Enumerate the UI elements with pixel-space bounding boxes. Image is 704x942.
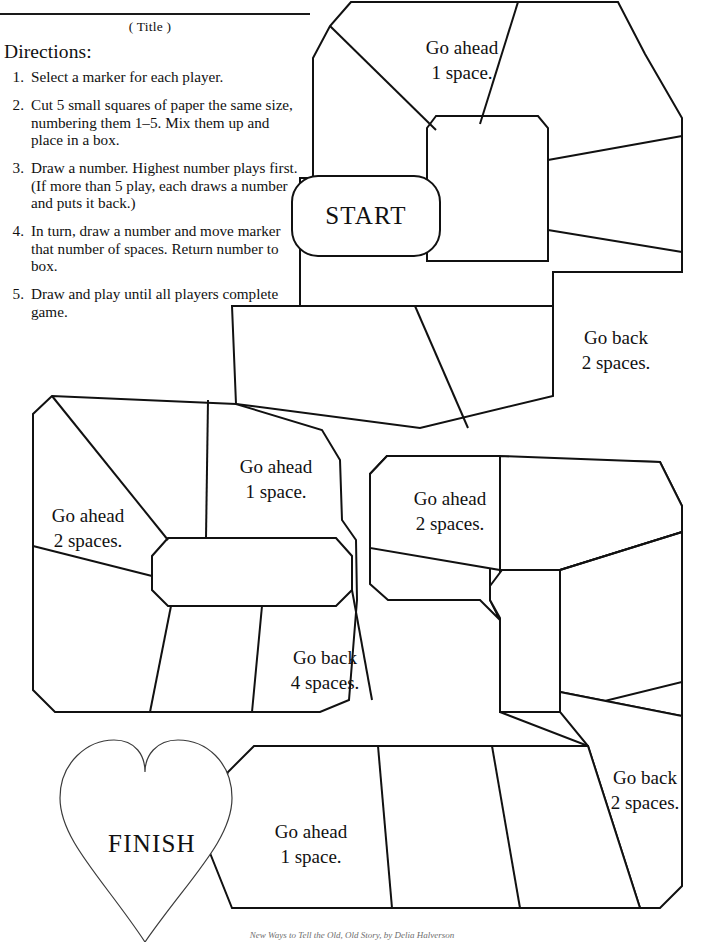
board-label-lower-right-go-back-2-line1: Go back (613, 767, 677, 788)
board-label-bottom-go-ahead-1-line1: Go ahead (275, 821, 348, 842)
board-label-right-go-back-2-line2: 2 spaces. (582, 352, 651, 373)
board-space-diagonal-connector[interactable] (232, 306, 553, 428)
board-label-left-go-ahead-2-line2: 2 spaces. (54, 530, 123, 551)
board-label-top-go-ahead-1-line2: 1 space. (431, 62, 492, 83)
footer-credit: New Ways to Tell the Old, Old Story, by … (0, 930, 704, 940)
board-label-mid-go-back-4-line1: Go back (293, 647, 357, 668)
board-space-right-ring-inner (490, 570, 560, 712)
board-space-bottom-strip[interactable] (204, 746, 640, 908)
board-label-bottom-go-ahead-1-line2: 1 space. (280, 846, 341, 867)
board-label-left-go-ahead-2-line1: Go ahead (52, 505, 125, 526)
board-finish-label: FINISH (108, 830, 196, 857)
game-board: START FINISH Go ahead 1 space. Go back 2… (0, 0, 704, 942)
board-label-top-go-ahead-1-line1: Go ahead (426, 37, 499, 58)
board-label-lower-right-go-back-2-line2: 2 spaces. (611, 792, 680, 813)
board-start-label: START (325, 202, 407, 229)
board-label-mid-go-back-4-line2: 4 spaces. (291, 672, 360, 693)
board-label-right-go-back-2-line1: Go back (584, 327, 648, 348)
board-label-mid-go-ahead-1-line2: 1 space. (245, 481, 306, 502)
board-label-mid-go-ahead-1-line1: Go ahead (240, 456, 313, 477)
board-label-mid-go-ahead-2-line2: 2 spaces. (416, 513, 485, 534)
board-label-mid-go-ahead-2-line1: Go ahead (414, 488, 487, 509)
